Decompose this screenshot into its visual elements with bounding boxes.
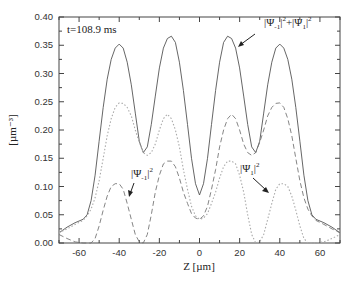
series-solid-line [59,36,340,233]
x-axis-title: Z [µm] [183,260,215,272]
x-tick-label: -20 [152,247,166,258]
y-tick-label: 0.10 [35,181,54,192]
psi-minus1-annotation: |Ψ-1|2 [128,166,153,197]
plot-frame [59,17,340,243]
y-tick-label: 0.15 [35,152,54,163]
arrow-icon [253,178,266,190]
x-tick-label: 60 [315,247,326,258]
psi-1-annotation: |Ψ1|2 [240,161,269,193]
y-tick-label: 0.05 [35,209,54,220]
svg-text:|Ψ1|2: |Ψ1|2 [240,161,260,177]
y-axis-ticks: 0.000.050.100.150.200.250.300.350.40 [35,11,341,248]
y-tick-label: 0.00 [35,237,54,248]
x-tick-label: 0 [197,247,202,258]
time-annotation: t=108.9 ms [67,23,117,35]
x-tick-label: -60 [72,247,86,258]
x-axis-ticks: -60-40-200204060 [59,17,340,258]
y-tick-label: 0.30 [35,68,54,79]
y-tick-label: 0.25 [35,96,54,107]
y-tick-label: 0.20 [35,124,54,135]
sum-annotation: |Ψ-1|2+|Ψ1|2 [238,15,312,47]
arrowhead-icon [128,190,133,197]
y-tick-label: 0.35 [35,39,54,50]
x-tick-label: 20 [234,247,245,258]
arrowhead-icon [238,41,244,47]
chart: -60-40-200204060 0.000.050.100.150.200.2… [0,0,353,285]
curves [59,36,340,243]
y-axis-title: [µm⁻³] [6,114,18,146]
y-tick-label: 0.40 [35,11,54,22]
x-tick-label: 40 [274,247,285,258]
svg-text:|Ψ-1|2: |Ψ-1|2 [131,166,153,182]
x-tick-label: -40 [112,247,126,258]
